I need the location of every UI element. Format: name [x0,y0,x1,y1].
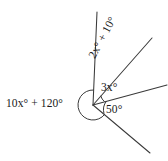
reflex-angle-arc [78,90,105,120]
three-x-arc [101,96,105,102]
diagram-canvas [0,0,168,161]
label-reflex-angle: 10x° + 120° [6,98,63,110]
label-fifty-angle: 50° [106,104,122,116]
label-three-x-angle: 3x° [101,82,117,94]
angle-diagram-figure: 10x° + 120° 2x° + 10° 3x° 50° [0,0,168,161]
